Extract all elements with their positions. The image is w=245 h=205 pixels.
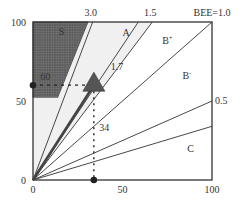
x-axis-point — [91, 177, 98, 184]
region-label-c: C — [187, 143, 194, 154]
y-axis-point — [30, 82, 37, 89]
ratio-label-3: 3.0 — [84, 7, 97, 18]
region-label-a: A — [122, 27, 130, 38]
annotation-60: 60 — [40, 71, 50, 82]
region-label-text: C — [187, 143, 194, 154]
region-label-s: S — [59, 26, 65, 37]
region-label-text: A — [122, 27, 130, 38]
ratio-label-1-5: 1.5 — [144, 7, 157, 18]
region-label-b-plus: B+ — [162, 35, 173, 46]
annotation-34: 34 — [99, 122, 109, 133]
diagram-canvas: 3.01.5BEE=1.01.70.5050100050100SAB+B-C60… — [0, 0, 245, 205]
region-label-b-minus: B- — [183, 70, 192, 81]
y-tick-label: 0 — [21, 175, 26, 186]
x-tick-label: 50 — [118, 184, 128, 195]
region-label-text: S — [59, 26, 65, 37]
ratio-label-1-7: 1.7 — [111, 61, 124, 72]
ratio-label-0-5: 0.5 — [215, 95, 228, 106]
x-tick-label: 100 — [205, 184, 220, 195]
y-tick-label: 100 — [11, 17, 26, 28]
region-label-superscript: - — [189, 70, 191, 76]
x-tick-label: 0 — [31, 184, 36, 195]
y-tick-label: 50 — [16, 96, 26, 107]
ratio-label-1: BEE=1.0 — [193, 7, 230, 18]
region-label-superscript: + — [169, 35, 173, 41]
